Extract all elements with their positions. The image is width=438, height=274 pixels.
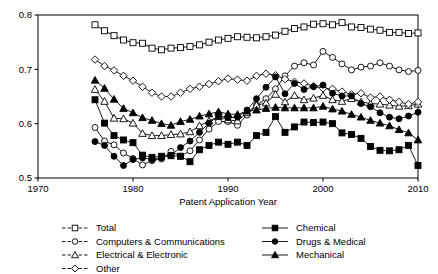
- data-point-marker: [396, 67, 402, 73]
- data-point-marker: [110, 67, 118, 75]
- legend-item-mechanical[interactable]: Mechanical: [262, 249, 344, 260]
- data-point-marker: [130, 157, 136, 163]
- chart-figure: 0.50.60.70.819701980199020002010Patent A…: [0, 0, 438, 274]
- data-point-marker: [92, 22, 98, 28]
- data-point-marker: [330, 121, 336, 127]
- data-point-marker: [254, 133, 260, 139]
- data-point-marker: [149, 157, 155, 163]
- data-point-marker: [330, 54, 336, 60]
- data-point-marker: [235, 139, 241, 145]
- data-point-marker: [72, 225, 78, 231]
- data-point-marker: [282, 91, 288, 97]
- data-point-marker: [329, 96, 337, 103]
- data-point-marker: [225, 35, 231, 41]
- data-point-marker: [111, 142, 117, 148]
- data-point-marker: [406, 69, 412, 75]
- data-point-marker: [196, 83, 204, 91]
- data-point-marker: [72, 265, 79, 272]
- legend-label: Computers & Communications: [96, 236, 225, 247]
- data-point-marker: [243, 77, 251, 85]
- data-point-marker: [415, 163, 421, 169]
- legend-item-other[interactable]: Other: [62, 263, 120, 274]
- data-point-marker: [178, 153, 184, 159]
- y-tick-label: 0.7: [19, 64, 32, 75]
- data-point-marker: [320, 82, 326, 88]
- data-point-marker: [111, 33, 117, 39]
- data-point-marker: [301, 119, 307, 125]
- chart-canvas: 0.50.60.70.819701980199020002010Patent A…: [0, 0, 438, 274]
- legend-item-electrical-electronic[interactable]: Electrical & Electronic: [62, 249, 188, 260]
- data-point-marker: [186, 128, 194, 135]
- data-point-marker: [91, 56, 99, 64]
- data-point-marker: [102, 28, 108, 34]
- data-point-marker: [405, 129, 413, 136]
- data-point-marker: [368, 143, 374, 149]
- data-point-marker: [395, 98, 403, 106]
- data-point-marker: [348, 111, 356, 118]
- data-point-marker: [139, 114, 147, 121]
- data-point-marker: [368, 26, 374, 32]
- data-point-marker: [339, 20, 345, 26]
- data-point-marker: [311, 21, 317, 27]
- data-point-marker: [349, 93, 355, 99]
- data-point-marker: [205, 80, 213, 88]
- legend-item-computers-communications[interactable]: Computers & Communications: [62, 236, 225, 247]
- data-point-marker: [92, 97, 98, 103]
- data-point-marker: [168, 152, 174, 158]
- data-point-marker: [263, 84, 269, 90]
- data-point-marker: [320, 119, 326, 125]
- data-point-marker: [358, 135, 364, 141]
- data-point-marker: [292, 63, 298, 69]
- legend-item-drugs-medical[interactable]: Drugs & Medical: [262, 236, 366, 247]
- data-point-marker: [330, 22, 336, 28]
- y-tick-label: 0.6: [19, 118, 32, 129]
- data-point-marker: [140, 40, 146, 46]
- data-point-marker: [406, 30, 412, 36]
- data-point-marker: [272, 239, 278, 245]
- data-point-marker: [357, 89, 365, 97]
- y-axis: 0.50.60.70.8: [19, 9, 38, 183]
- data-point-marker: [272, 225, 278, 231]
- data-point-marker: [282, 28, 288, 34]
- data-point-marker: [167, 93, 175, 101]
- data-point-marker: [206, 120, 212, 126]
- data-point-marker: [91, 76, 99, 83]
- data-point-marker: [396, 116, 402, 122]
- data-point-marker: [197, 42, 203, 48]
- data-point-marker: [158, 93, 166, 101]
- data-point-marker: [197, 129, 203, 135]
- x-axis-title: Patent Application Year: [179, 196, 277, 207]
- data-point-marker: [215, 78, 223, 86]
- legend-item-chemical[interactable]: Chemical: [262, 222, 336, 233]
- data-point-marker: [253, 72, 261, 80]
- data-point-marker: [244, 142, 250, 148]
- data-point-marker: [111, 133, 117, 139]
- data-point-marker: [111, 153, 117, 159]
- x-tick-label: 1990: [217, 183, 238, 194]
- legend-label: Electrical & Electronic: [96, 249, 188, 260]
- x-tick-label: 2000: [312, 183, 333, 194]
- data-point-marker: [92, 124, 98, 130]
- data-point-marker: [215, 108, 223, 115]
- data-point-marker: [121, 150, 127, 156]
- data-point-marker: [72, 239, 78, 245]
- data-point-marker: [292, 80, 298, 86]
- data-point-marker: [368, 104, 374, 110]
- legend-label: Chemical: [296, 222, 336, 233]
- data-point-marker: [262, 70, 270, 78]
- data-point-marker: [254, 96, 260, 102]
- data-point-marker: [301, 60, 307, 66]
- data-point-marker: [311, 62, 317, 68]
- data-point-marker: [273, 114, 279, 120]
- data-point-marker: [367, 117, 375, 124]
- x-axis: 19701980199020002010Patent Application Y…: [27, 178, 428, 207]
- legend-label: Other: [96, 263, 120, 274]
- data-point-marker: [368, 63, 374, 69]
- legend-item-total[interactable]: Total: [62, 222, 116, 233]
- data-point-marker: [234, 76, 242, 84]
- data-point-marker: [224, 75, 232, 83]
- data-point-marker: [292, 26, 298, 32]
- data-point-marker: [216, 37, 222, 43]
- data-point-marker: [91, 86, 99, 93]
- data-point-marker: [358, 24, 364, 30]
